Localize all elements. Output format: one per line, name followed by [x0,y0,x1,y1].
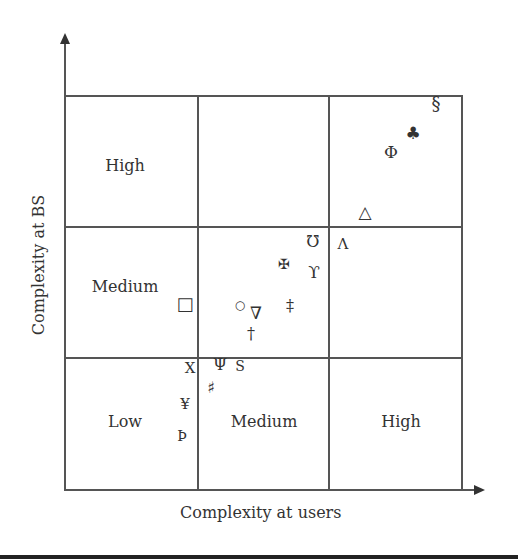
symbol-lambda-icon: Λ [338,237,349,252]
y-axis [64,40,66,490]
col-label-high: High [381,412,421,431]
symbol-dagger-icon: † [247,326,255,342]
grid-line-h1 [64,226,462,228]
row-label-medium: Medium [92,277,159,296]
symbol-nabla-icon: ∇ [250,305,262,322]
symbol-double-dagger-icon: ‡ [286,298,294,314]
grid-line-v1 [197,95,199,490]
symbol-x-icon: X [185,361,196,376]
x-axis [64,489,476,491]
symbol-upsilon-icon: ϒ [308,264,320,281]
row-label-high: High [105,156,145,175]
grid-line-right [461,95,463,490]
x-axis-arrow-icon [474,484,486,496]
symbol-psi-icon: Ψ [213,357,227,373]
grid-line-top [64,95,462,97]
symbol-sharp-icon: ♯ [207,380,215,396]
symbol-circle-icon: ○ [235,299,245,311]
symbol-yen-icon: ¥ [180,397,190,412]
y-axis-arrow-icon [59,33,71,45]
col-label-low: Low [108,412,142,431]
symbol-ohm-inverted-icon: ℧ [306,234,319,250]
symbol-s-icon: S [235,359,245,373]
y-axis-label: Complexity at BS [29,195,48,335]
symbol-square-icon: □ [176,295,193,313]
diagram: High Medium Low Medium High Complexity a… [0,0,518,559]
x-axis-label: Complexity at users [180,503,341,522]
symbol-phi-icon: Φ [384,144,398,161]
grid-line-v2 [328,95,330,490]
symbol-triangle-up-icon: △ [358,204,371,221]
grid-line-h2 [64,357,462,359]
col-label-medium: Medium [231,412,298,431]
symbol-club-icon: ♣ [405,125,420,142]
symbol-maltese-cross-icon: ✠ [278,257,290,271]
symbol-thorn-icon: Þ [177,429,186,443]
bottom-border [0,555,518,559]
symbol-section-icon: § [432,95,441,113]
